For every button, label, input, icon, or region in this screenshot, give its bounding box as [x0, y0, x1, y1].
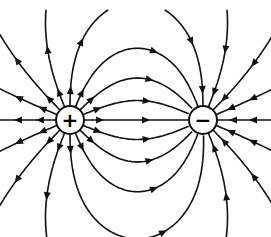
arrow-icon	[226, 104, 236, 114]
negative-sign-icon: −	[195, 108, 212, 132]
field-line	[216, 87, 271, 114]
arrow-icon	[249, 117, 257, 124]
arrow-icon	[142, 117, 150, 124]
field-line	[208, 10, 227, 107]
arrow-icon	[14, 93, 24, 103]
field-line	[165, 10, 203, 106]
arrow-icon	[149, 47, 159, 56]
arrow-icon	[54, 143, 63, 153]
arrow-icon	[247, 137, 257, 147]
arrow-icon	[226, 127, 236, 137]
arrow-icon	[37, 104, 47, 114]
arrow-icon	[36, 117, 44, 124]
arrow-icon	[158, 227, 168, 237]
field-line	[46, 133, 65, 237]
arrow-icon	[229, 117, 237, 124]
arrow-icon	[247, 94, 257, 104]
arrow-icon	[14, 117, 22, 124]
field-line	[80, 78, 192, 110]
arrow-icon	[142, 135, 151, 143]
arrow-icon	[43, 192, 51, 201]
field-line	[216, 125, 271, 152]
arrow-icon	[187, 36, 197, 46]
arrow-icon	[145, 156, 154, 165]
arrow-icon	[209, 143, 218, 153]
field-line	[70, 134, 204, 237]
arrow-icon	[93, 127, 103, 136]
field-line	[80, 130, 192, 162]
arrow-icon	[77, 87, 87, 97]
arrow-icon	[77, 36, 87, 46]
arrow-icon	[14, 137, 24, 147]
arrow-icon	[199, 86, 206, 94]
arrow-icon	[149, 184, 159, 193]
arrow-icon	[54, 87, 63, 97]
field-line	[208, 133, 227, 237]
field-line	[70, 10, 108, 106]
positive-sign-icon: +	[62, 108, 79, 132]
field-lines	[0, 10, 271, 237]
arrow-icon	[67, 146, 74, 154]
arrow-icon	[209, 87, 218, 97]
arrow-icon	[96, 117, 104, 124]
arrow-icon	[145, 75, 154, 84]
arrow-icon	[222, 192, 230, 201]
dipole-field-diagram: +−	[0, 0, 271, 237]
arrow-icon	[37, 127, 47, 137]
arrow-icon	[77, 142, 87, 152]
field-line	[46, 10, 65, 107]
arrow-icon	[93, 104, 103, 113]
arrow-icon	[67, 86, 74, 94]
arrow-icon	[142, 97, 151, 105]
